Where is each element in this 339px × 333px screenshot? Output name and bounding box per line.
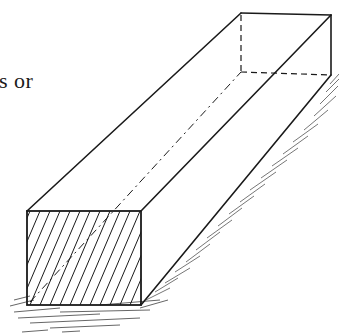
- side-shadow-hatch: [146, 74, 339, 300]
- visible-edges: [27, 13, 331, 305]
- hidden-edges: [241, 15, 331, 75]
- beam-perspective-diagram: [0, 0, 339, 333]
